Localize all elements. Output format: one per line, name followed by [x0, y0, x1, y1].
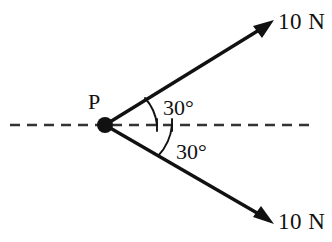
- point-p-label: P: [88, 89, 100, 114]
- force-diagram: P 10 N 10 N 30° 30°: [0, 0, 332, 242]
- force-diagram-canvas: P 10 N 10 N 30° 30°: [0, 0, 332, 242]
- point-p-dot: [97, 117, 113, 133]
- lower-force-label: 10 N: [278, 209, 325, 234]
- upper-force-arrowhead: [253, 20, 274, 38]
- lower-angle-arc: [158, 125, 172, 156]
- upper-force-label: 10 N: [278, 9, 325, 34]
- lower-angle-label: 30°: [176, 139, 207, 164]
- upper-angle-label: 30°: [163, 95, 194, 120]
- upper-angle-arc: [145, 98, 157, 125]
- lower-force-arrowhead: [253, 206, 274, 224]
